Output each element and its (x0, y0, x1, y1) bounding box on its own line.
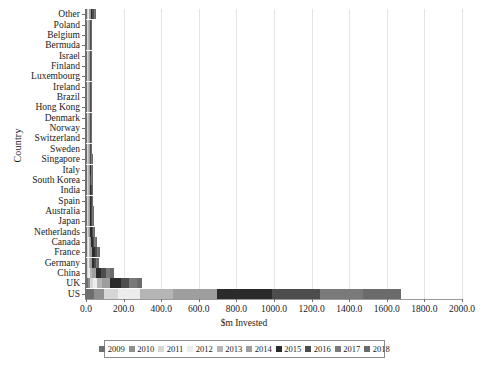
table-row[interactable] (86, 102, 92, 112)
bar-segment[interactable] (91, 92, 92, 102)
bar-segment[interactable] (91, 30, 92, 40)
y-axis-tick-label: Bermuda (0, 40, 80, 50)
bar-segment[interactable] (91, 113, 92, 123)
table-row[interactable] (86, 154, 92, 164)
legend-item[interactable]: 2016 (305, 345, 331, 354)
bar-segment[interactable] (140, 289, 173, 299)
table-row[interactable] (86, 237, 97, 247)
bar-segment[interactable] (95, 9, 96, 19)
bar-segment[interactable] (91, 40, 92, 50)
bar-segment[interactable] (93, 206, 94, 216)
table-row[interactable] (86, 175, 92, 185)
bar-segment[interactable] (118, 289, 141, 299)
bar-segment[interactable] (92, 165, 93, 175)
bar-segment[interactable] (93, 216, 94, 226)
bar-segment[interactable] (121, 278, 130, 288)
bar-segment[interactable] (320, 289, 363, 299)
legend-item[interactable]: 2014 (246, 345, 272, 354)
bar-segment[interactable] (217, 289, 272, 299)
bar-segment[interactable] (91, 123, 92, 133)
legend-item[interactable]: 2012 (187, 345, 213, 354)
bar-segment[interactable] (91, 82, 92, 92)
y-axis-tick (82, 180, 85, 181)
bar-segment[interactable] (97, 258, 98, 268)
bar-segment[interactable] (91, 61, 92, 71)
bar-segment[interactable] (363, 289, 402, 299)
x-axis-tick (387, 299, 388, 302)
table-row[interactable] (86, 165, 93, 175)
bar-segment[interactable] (104, 289, 118, 299)
y-axis-tick-label: Australia (0, 206, 80, 216)
table-row[interactable] (86, 227, 95, 237)
bar-segment[interactable] (129, 278, 136, 288)
y-axis-tick (82, 25, 85, 26)
table-row[interactable] (86, 196, 93, 206)
table-row[interactable] (86, 113, 92, 123)
legend-item[interactable]: 2010 (129, 345, 155, 354)
bar-segment[interactable] (96, 237, 97, 247)
legend-item[interactable]: 2009 (99, 345, 125, 354)
bar-segment[interactable] (110, 278, 120, 288)
table-row[interactable] (86, 9, 96, 19)
bar-segment[interactable] (94, 227, 95, 237)
table-row[interactable] (86, 40, 92, 50)
legend-swatch-icon (158, 346, 164, 352)
legend-item[interactable]: 2017 (335, 345, 361, 354)
x-axis-tick (236, 299, 237, 302)
table-row[interactable] (86, 258, 99, 268)
bar-segment[interactable] (173, 289, 217, 299)
bar-segment[interactable] (137, 278, 143, 288)
table-row[interactable] (86, 278, 142, 288)
y-axis-tick-label: South Korea (0, 175, 80, 185)
x-axis-tick (124, 299, 125, 302)
y-axis-tick (82, 232, 85, 233)
bar-segment[interactable] (91, 71, 92, 81)
bar-segment[interactable] (92, 154, 93, 164)
table-row[interactable] (86, 185, 93, 195)
bar-segment[interactable] (94, 289, 104, 299)
table-row[interactable] (86, 247, 100, 257)
table-row[interactable] (86, 82, 92, 92)
chart-legend[interactable]: 2009201020112012201320142015201620172018 (104, 340, 385, 358)
table-row[interactable] (86, 123, 92, 133)
bar-segment[interactable] (102, 278, 110, 288)
bar-segment[interactable] (91, 144, 92, 154)
y-axis-tick-label: Sweden (0, 144, 80, 154)
y-axis-tick (82, 118, 85, 119)
table-row[interactable] (86, 61, 92, 71)
y-axis-tick-label: Singapore (0, 154, 80, 164)
y-axis-tick-label: Canada (0, 237, 80, 247)
legend-item[interactable]: 2015 (276, 345, 302, 354)
legend-item[interactable]: 2011 (158, 345, 183, 354)
bar-segment[interactable] (91, 20, 92, 30)
bar-segment[interactable] (91, 51, 92, 61)
table-row[interactable] (86, 289, 401, 299)
bar-segment[interactable] (110, 268, 113, 278)
bar-segment[interactable] (92, 196, 93, 206)
bar-segment[interactable] (92, 185, 93, 195)
y-axis-tick (82, 273, 85, 274)
table-row[interactable] (86, 20, 92, 30)
table-row[interactable] (86, 206, 93, 216)
table-row[interactable] (86, 71, 92, 81)
bar-segment[interactable] (91, 133, 92, 143)
legend-item[interactable]: 2018 (364, 345, 390, 354)
bar-segment[interactable] (272, 289, 320, 299)
y-axis-tick-label: Denmark (0, 113, 80, 123)
y-axis-tick-label: Spain (0, 196, 80, 206)
bar-segment[interactable] (98, 247, 99, 257)
table-row[interactable] (86, 30, 92, 40)
y-axis-tick-label: Italy (0, 165, 80, 175)
table-row[interactable] (86, 144, 92, 154)
table-row[interactable] (86, 216, 94, 226)
table-row[interactable] (86, 92, 92, 102)
table-row[interactable] (86, 133, 92, 143)
y-axis-tick-label: Luxembourg (0, 71, 80, 81)
bar-segment[interactable] (92, 175, 93, 185)
table-row[interactable] (86, 268, 114, 278)
table-row[interactable] (86, 51, 92, 61)
bar-segment[interactable] (86, 289, 94, 299)
legend-item[interactable]: 2013 (217, 345, 243, 354)
bar-segment[interactable] (91, 102, 92, 112)
y-axis-tick (82, 128, 85, 129)
